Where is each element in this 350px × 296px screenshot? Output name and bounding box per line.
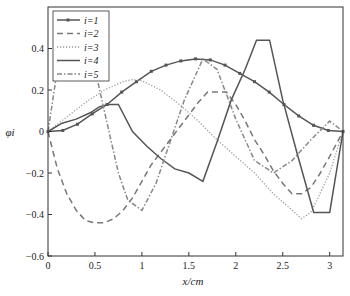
series-marker xyxy=(165,64,168,67)
series-marker xyxy=(61,129,64,132)
series-marker xyxy=(253,80,256,83)
y-tick-label: 0.4 xyxy=(32,43,45,54)
legend: i=1i=2i=3i=4i=5 xyxy=(53,11,109,81)
x-tick-label: 0 xyxy=(46,260,51,271)
legend-label: i=5 xyxy=(84,69,99,80)
y-tick-label: −0.2 xyxy=(26,168,44,179)
x-tick-label: 2.5 xyxy=(277,260,290,271)
legend-label: i=4 xyxy=(84,55,99,66)
y-tick-label: −0.6 xyxy=(26,251,44,262)
x-tick-label: 3 xyxy=(327,260,332,271)
line-chart: 00.511.522.53−0.6−0.4−0.200.20.4 x/cm φi… xyxy=(0,0,350,296)
series-marker xyxy=(297,114,300,117)
y-axis-title: φi xyxy=(5,126,14,138)
legend-box xyxy=(53,11,109,81)
series-marker xyxy=(194,57,197,60)
y-tick-label: −0.4 xyxy=(26,209,44,220)
series-marker xyxy=(150,70,153,73)
series-marker xyxy=(327,129,330,132)
x-tick-label: 1 xyxy=(139,260,144,271)
series-marker xyxy=(224,64,227,67)
series-marker xyxy=(209,58,212,61)
x-tick-label: 1.5 xyxy=(183,260,196,271)
legend-marker xyxy=(67,19,70,22)
legend-label: i=1 xyxy=(84,15,99,26)
legend-label: i=3 xyxy=(84,42,99,53)
series-marker xyxy=(238,72,241,75)
x-tick-label: 0.5 xyxy=(89,260,102,271)
series-marker xyxy=(179,59,182,62)
series-line-3 xyxy=(48,80,343,219)
x-axis-title: x/cm xyxy=(182,275,204,287)
legend-label: i=2 xyxy=(84,28,99,39)
series-marker xyxy=(76,123,79,126)
series-marker xyxy=(120,91,123,94)
series-marker xyxy=(312,124,315,127)
series-marker xyxy=(268,91,271,94)
y-tick-label: 0.2 xyxy=(32,85,45,96)
y-tick-label: 0 xyxy=(39,126,44,137)
x-tick-label: 2 xyxy=(233,260,238,271)
